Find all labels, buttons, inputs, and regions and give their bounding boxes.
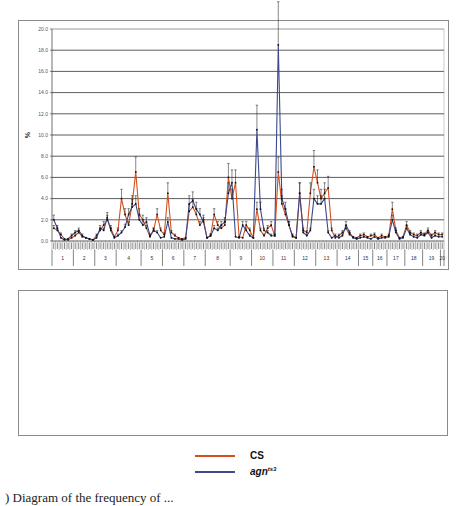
y-axis-label: % bbox=[24, 131, 31, 138]
y-tick-label: 20.0 bbox=[38, 26, 48, 32]
x-group-label: 14 bbox=[345, 255, 351, 261]
x-group-label: 5 bbox=[150, 255, 153, 261]
legend-item-agn: agnts3 bbox=[195, 466, 315, 478]
y-tick-label: 6.0 bbox=[41, 174, 48, 180]
x-group-label: 1 bbox=[61, 255, 64, 261]
x-group-label: 15 bbox=[363, 255, 369, 261]
legend-label-agn-sup: ts3 bbox=[268, 466, 277, 472]
y-tick-label: 8.0 bbox=[41, 153, 48, 159]
legend-swatch-agn bbox=[195, 471, 235, 473]
x-group-label: 20 bbox=[439, 255, 445, 261]
y-tick-label: 10.0 bbox=[38, 132, 48, 138]
x-group-label: 12 bbox=[302, 255, 308, 261]
x-group-label: 18 bbox=[411, 255, 417, 261]
x-group-label: 6 bbox=[172, 255, 175, 261]
y-tick-label: 12.0 bbox=[38, 111, 48, 117]
legend-item-cs: CS bbox=[195, 450, 315, 462]
x-group-label: 3 bbox=[104, 255, 107, 261]
y-tick-label: 18.0 bbox=[38, 47, 48, 53]
x-group-label: 16 bbox=[377, 255, 383, 261]
chart-top-plot: 0.02.04.06.08.010.012.014.016.018.020.0%… bbox=[24, 2, 445, 266]
y-tick-label: 14.0 bbox=[38, 89, 48, 95]
y-tick-label: 2.0 bbox=[41, 217, 48, 223]
x-group-label: 10 bbox=[259, 255, 265, 261]
chart-bottom-frame bbox=[18, 290, 448, 436]
x-group-label: 4 bbox=[127, 255, 130, 261]
figure-caption: ) Diagram of the frequency of ... bbox=[5, 490, 174, 506]
y-tick-label: 0.0 bbox=[41, 238, 48, 244]
x-group-label: 11 bbox=[281, 255, 286, 261]
y-tick-label: 4.0 bbox=[41, 195, 48, 201]
y-tick-label: 16.0 bbox=[38, 68, 48, 74]
legend-label-agn-text: agn bbox=[250, 466, 268, 477]
x-group-label: 2 bbox=[83, 255, 86, 261]
x-group-label: 19 bbox=[429, 255, 435, 261]
x-group-label: 13 bbox=[324, 255, 330, 261]
legend-swatch-cs bbox=[195, 455, 235, 457]
series-line-agn bbox=[54, 45, 442, 240]
x-group-label: 8 bbox=[216, 255, 219, 261]
legend-label-cs: CS bbox=[250, 450, 264, 461]
x-group-label: 9 bbox=[239, 255, 242, 261]
legend-label-agn: agnts3 bbox=[250, 466, 276, 477]
x-group-label: 17 bbox=[393, 255, 399, 261]
legend: CS agnts3 bbox=[195, 450, 315, 484]
x-group-label: 7 bbox=[193, 255, 196, 261]
